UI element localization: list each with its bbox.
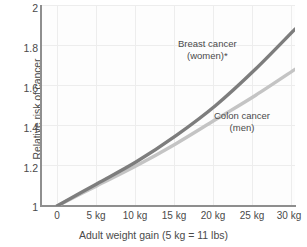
y-tick-label-1-4: 1.4 <box>14 123 38 134</box>
x-axis-title: Adult weight gain (5 kg = 11 lbs) <box>0 229 307 241</box>
y-tick-label-1-6: 1.6 <box>14 83 38 94</box>
y-tick-label-1-8: 1.8 <box>14 43 38 54</box>
annotation-colon-cancer: Colon cancer (men) <box>214 110 270 134</box>
x-tick-label-10kg: 10 kg <box>123 210 147 221</box>
annotation-breast-cancer: Breast cancer (women)* <box>178 38 237 62</box>
y-tick-label-2: 2 <box>14 3 38 14</box>
x-tick-label-5kg: 5 kg <box>87 210 106 221</box>
x-tick-label-30kg: 30 kg <box>277 210 301 221</box>
x-tick-label-15kg: 15 kg <box>162 210 186 221</box>
annotation-colon-line-2: (men) <box>214 122 270 134</box>
annotation-breast-line-1: Breast cancer <box>178 38 237 50</box>
y-tick-label-1-2: 1.2 <box>14 163 38 174</box>
x-axis-tick-labels: 0 5 kg 10 kg 15 kg 20 kg 25 kg 30 kg <box>0 210 307 224</box>
relative-risk-of-cancer-chart: Relative risk of cancer 2 1.8 1.6 1.4 1.… <box>0 0 307 247</box>
annotation-breast-line-2: (women)* <box>178 50 237 62</box>
x-tick-label-20kg: 20 kg <box>201 210 225 221</box>
data-curves <box>40 5 295 206</box>
x-tick-label-0: 0 <box>54 210 60 221</box>
x-tick-label-25kg: 25 kg <box>240 210 264 221</box>
annotation-colon-line-1: Colon cancer <box>214 110 270 122</box>
